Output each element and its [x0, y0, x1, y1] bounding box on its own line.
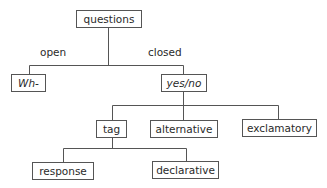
node-alternative: alternative	[150, 120, 218, 138]
node-wh: Wh-	[11, 74, 46, 92]
node-response: response	[32, 162, 94, 180]
node-declarative: declarative	[152, 161, 219, 179]
node-yes-no: yes/no	[161, 74, 207, 92]
edge-label-closed: closed	[148, 46, 182, 58]
node-exclamatory: exclamatory	[242, 119, 317, 137]
node-questions: questions	[76, 10, 142, 28]
node-tag: tag	[96, 120, 127, 138]
question-types-tree-diagram: questions open closed Wh- yes/no tag alt…	[0, 0, 327, 188]
connector-lines	[0, 0, 327, 188]
edge-label-open: open	[40, 46, 66, 58]
